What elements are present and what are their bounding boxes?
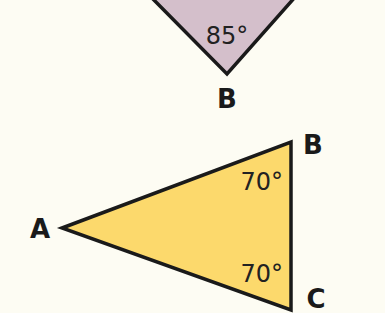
top-vertex-label-b: B [217, 84, 237, 114]
vertex-label-a: A [30, 214, 50, 244]
angle-label-b: 70° [240, 168, 283, 196]
vertex-label-b: B [303, 130, 323, 160]
triangle-diagram: 85° B 70° 70° A B C [0, 0, 385, 313]
vertex-label-c: C [306, 284, 325, 313]
bottom-triangle: 70° 70° A B C [30, 130, 326, 313]
top-angle-label: 85° [206, 22, 249, 50]
angle-label-c: 70° [240, 260, 283, 288]
top-triangle: 85° B [150, 0, 296, 114]
